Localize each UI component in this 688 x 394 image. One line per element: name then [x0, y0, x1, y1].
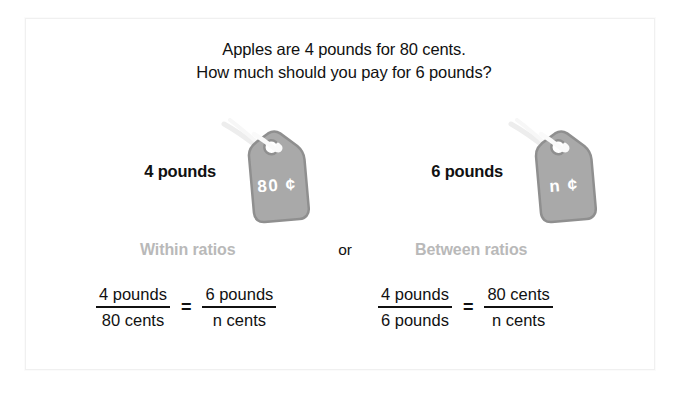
price-tag-group-left: 4 pounds 80 ¢ [108, 118, 338, 230]
weight-label-left: 4 pounds [108, 162, 216, 181]
weight-label-right: 6 pounds [395, 162, 503, 181]
price-tag-icon [220, 118, 330, 230]
price-tag-icon [507, 118, 617, 230]
between-equals-sign: = [452, 298, 485, 316]
or-separator-label: or [325, 241, 365, 259]
between-left-fraction: 4 pounds 6 pounds [378, 283, 452, 331]
between-left-denominator: 6 pounds [378, 308, 452, 331]
within-equals-sign: = [170, 298, 203, 316]
equations-row: 4 pounds 80 cents = 6 pounds n cents 4 p… [0, 276, 688, 346]
within-ratios-heading: Within ratios [140, 241, 235, 259]
within-right-fraction: 6 pounds n cents [202, 283, 276, 331]
between-ratios-equation: 4 pounds 6 pounds = 80 cents n cents [378, 276, 553, 338]
within-left-denominator: 80 cents [96, 308, 170, 331]
price-tag-left: 80 ¢ [220, 118, 330, 230]
problem-statement-line-2: How much should you pay for 6 pounds? [0, 61, 688, 84]
price-tag-row: 4 pounds 80 ¢ 6 pounds [0, 118, 688, 230]
problem-statement: Apples are 4 pounds for 80 cents. How mu… [0, 38, 688, 84]
problem-statement-line-1: Apples are 4 pounds for 80 cents. [0, 38, 688, 61]
within-left-fraction: 4 pounds 80 cents [96, 283, 170, 331]
within-left-numerator: 4 pounds [96, 283, 170, 308]
between-right-denominator: n cents [484, 308, 552, 331]
between-right-fraction: 80 cents n cents [484, 283, 552, 331]
within-ratios-equation: 4 pounds 80 cents = 6 pounds n cents [96, 276, 276, 338]
slide-canvas: Apples are 4 pounds for 80 cents. How mu… [0, 0, 688, 394]
price-tag-group-right: 6 pounds n ¢ [395, 118, 625, 230]
between-ratios-heading: Between ratios [415, 241, 527, 259]
price-tag-right: n ¢ [507, 118, 617, 230]
between-right-numerator: 80 cents [484, 283, 552, 308]
within-right-denominator: n cents [202, 308, 276, 331]
within-right-numerator: 6 pounds [202, 283, 276, 308]
between-left-numerator: 4 pounds [378, 283, 452, 308]
ratio-headings-row: Within ratios or Between ratios [0, 241, 688, 267]
